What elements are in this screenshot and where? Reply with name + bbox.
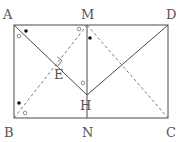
angle-dot-a [24,29,28,33]
segment-mc [87,25,168,118]
angle-dot-b [17,101,21,105]
label-e: E [54,67,64,82]
segment-ah [14,25,87,95]
angle-circle-b [23,111,27,115]
angle-circle-h [81,81,85,85]
label-n: N [82,125,93,140]
label-d: D [166,7,176,22]
segment-bm [14,25,87,118]
segment-hd [87,25,168,95]
diagram-canvas: A M D B N C H E [0,0,182,142]
angle-dot-m [88,36,92,40]
label-b: B [4,125,14,140]
label-c: C [166,125,176,140]
label-a: A [2,7,13,22]
angle-circle-a [17,34,21,38]
label-m: M [81,7,94,22]
angle-circle-m [77,27,81,31]
geometry-figure: A M D B N C H E [0,0,182,142]
label-h: H [80,98,91,113]
